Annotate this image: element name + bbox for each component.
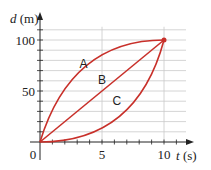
endpoint-dot — [162, 38, 167, 43]
x-tick-label-0: 0 — [30, 147, 37, 162]
x-tick-label-5: 5 — [99, 147, 106, 162]
y-axis-label: d (m) — [10, 11, 39, 26]
curve-label-c: C — [113, 94, 122, 108]
y-tick-label-50: 50 — [22, 84, 35, 99]
axes — [30, 12, 194, 160]
curve-label-a: A — [79, 57, 87, 71]
x-tick-label-10: 10 — [158, 147, 171, 162]
x-axis-label: t (s) — [176, 148, 197, 163]
curve-label-b: B — [98, 73, 106, 87]
x-axis-arrow-icon — [186, 139, 194, 145]
y-tick-label-100: 100 — [16, 33, 36, 48]
distance-time-chart: d (m) t (s) 100 50 0 5 10 A B C — [0, 0, 211, 170]
